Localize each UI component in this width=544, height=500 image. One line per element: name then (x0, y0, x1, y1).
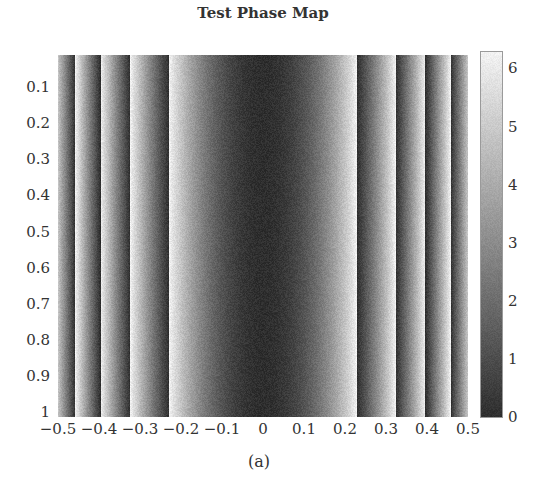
y-tick-label: 0.6 (0, 259, 50, 277)
x-tick-label: −0.4 (81, 420, 117, 438)
colorbar-tick-label: 6 (508, 59, 518, 77)
y-tick-label: 0.9 (0, 367, 50, 385)
figure-caption: (a) (248, 452, 270, 471)
y-tick-label: 0.3 (0, 150, 50, 168)
y-tick-label: 0.1 (0, 78, 50, 96)
colorbar (481, 52, 502, 417)
x-tick-label: 0.2 (333, 420, 357, 438)
x-tick-label: 0.5 (456, 420, 480, 438)
x-tick-label: 0.3 (374, 420, 398, 438)
y-tick-label: 1 (0, 403, 50, 421)
y-tick-label: 0.2 (0, 114, 50, 132)
colorbar-tick-label: 2 (508, 292, 518, 310)
x-tick-label: −0.3 (122, 420, 158, 438)
x-tick-label: −0.2 (163, 420, 199, 438)
colorbar-tick-label: 5 (508, 118, 518, 136)
y-tick-label: 0.8 (0, 331, 50, 349)
colorbar-tick-label: 1 (508, 350, 518, 368)
x-tick-label: −0.1 (204, 420, 240, 438)
x-tick-label: 0.4 (415, 420, 439, 438)
colorbar-tick-label: 3 (508, 234, 518, 252)
x-tick-label: 0.1 (292, 420, 316, 438)
y-tick-label: 0.5 (0, 223, 50, 241)
phase-map-heatmap (58, 55, 468, 417)
colorbar-tick-label: 4 (508, 176, 518, 194)
chart-title: Test Phase Map (58, 4, 468, 22)
x-tick-label: −0.5 (40, 420, 76, 438)
y-tick-label: 0.7 (0, 295, 50, 313)
colorbar-tick-label: 0 (508, 408, 518, 426)
y-tick-label: 0.4 (0, 186, 50, 204)
x-tick-label: 0 (258, 420, 268, 438)
